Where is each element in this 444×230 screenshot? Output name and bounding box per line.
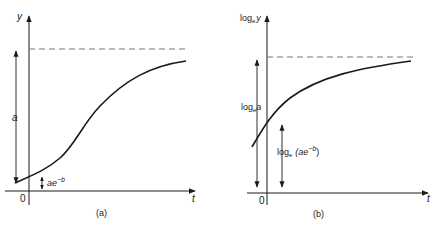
intercept-label-b: loge(ae−b) (277, 145, 319, 158)
intercept-label-a: ae−b (47, 176, 65, 188)
y-axis-label-a: y (16, 11, 23, 22)
height-label-a: a (12, 112, 18, 123)
x-axis-label-a: t (192, 193, 196, 204)
y-axis-label-b: logey (240, 13, 261, 24)
origin-label-a: 0 (20, 193, 26, 204)
origin-label-b: 0 (259, 195, 265, 206)
curve-a (15, 61, 186, 183)
panel-a: y t 0 a ae−b (a) (5, 11, 196, 218)
panel-b: logey t 0 logea loge(ae−b) (b) (240, 13, 431, 219)
height-label-b: logea (241, 102, 261, 113)
caption-a: (a) (96, 208, 107, 218)
caption-b: (b) (313, 209, 324, 219)
figure-canvas: y t 0 a ae−b (a) logey t 0 logea loge(ae… (0, 0, 444, 230)
x-axis-label-b: t (427, 193, 431, 204)
curve-b (252, 61, 411, 147)
